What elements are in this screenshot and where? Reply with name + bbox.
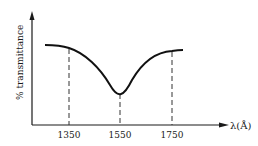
tick-label-1550: 1550	[109, 130, 132, 140]
x-axis-label: λ(Å)	[230, 120, 251, 131]
transmittance-curve	[45, 45, 183, 94]
tick-label-1350: 1350	[58, 130, 81, 140]
tick-label-1750: 1750	[161, 130, 184, 140]
y-axis-arrow-icon	[30, 11, 35, 20]
x-axis-arrow-icon	[219, 123, 229, 128]
transmittance-chart: 1350 1550 1750 λ(Å) % transmittance	[0, 0, 258, 146]
y-axis-label: % transmittance	[15, 25, 25, 100]
